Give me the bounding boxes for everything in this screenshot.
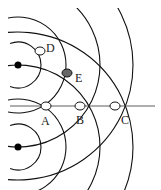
- point-b-marker: [75, 102, 85, 110]
- wavefront-1-3: [0, 0, 100, 147]
- source-1-dot: [15, 62, 22, 69]
- point-b-label: B: [76, 113, 84, 127]
- wavefront-2-4: [0, 32, 133, 190]
- point-a-marker: [41, 102, 51, 110]
- point-a-label: A: [41, 114, 50, 128]
- wavefront-arcs: [0, 0, 133, 190]
- wavefront-1-4: [0, 0, 133, 180]
- point-e-label: E: [75, 71, 82, 85]
- wavefront-2-3: [0, 65, 100, 190]
- point-d-marker: [35, 47, 45, 55]
- point-c-label: C: [121, 113, 129, 127]
- interference-diagram: DEABC: [0, 0, 161, 190]
- source-2-dot: [15, 144, 22, 151]
- diagram-canvas: DEABC: [0, 0, 161, 190]
- point-c-marker: [110, 102, 120, 110]
- point-d-label: D: [46, 41, 55, 55]
- point-e-marker: [62, 69, 72, 77]
